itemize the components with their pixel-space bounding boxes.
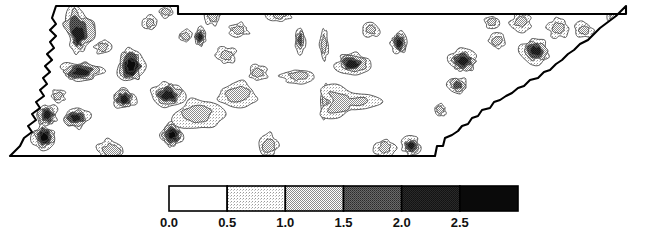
legend-band (285, 186, 343, 211)
legend-band (227, 186, 285, 211)
legend-tick-label: 1.5 (334, 215, 352, 230)
contour-band (615, 33, 629, 61)
legend-tick-group: 0.00.51.01.52.02.5 (160, 215, 469, 230)
contour-band (10, 113, 30, 128)
contour-band (530, 46, 541, 56)
legend-tick-label: 2.5 (451, 215, 469, 230)
legend-tick-label: 1.0 (276, 215, 294, 230)
contour-band (126, 59, 136, 71)
contour-band (14, 114, 27, 125)
contour-band (618, 38, 627, 59)
legend-band-group (169, 186, 518, 211)
contour-band (615, 25, 631, 70)
legend-tick-label: 2.0 (393, 215, 411, 230)
legend-container: 0.00.51.01.52.02.5 (0, 180, 647, 245)
legend-band (169, 186, 227, 211)
legend-band (344, 186, 402, 211)
tennessee-contour-map (0, 0, 647, 180)
legend-colorbar: 0.00.51.01.52.02.5 (0, 180, 647, 245)
contour-band (609, 24, 634, 72)
contour-fill-layer (10, 3, 635, 161)
contour-band (146, 18, 154, 27)
legend-band (402, 186, 460, 211)
contour-band (552, 23, 564, 34)
legend-band (460, 186, 518, 211)
contour-map-figure: 0.00.51.01.52.02.5 (0, 0, 647, 245)
legend-tick-label: 0.5 (218, 215, 236, 230)
state-outline (10, 6, 626, 156)
legend-tick-label: 0.0 (160, 215, 178, 230)
